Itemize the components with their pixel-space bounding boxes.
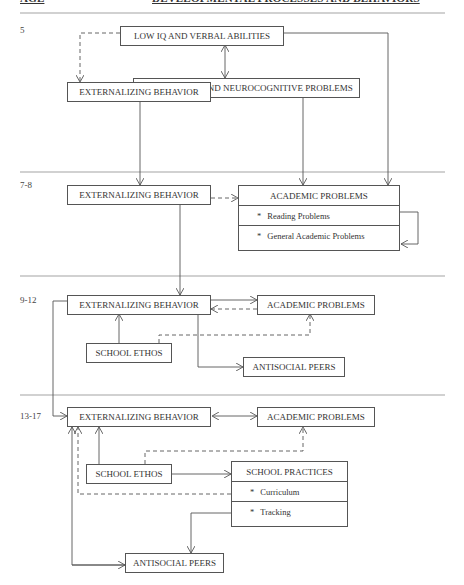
arrow-ext912-to-ext1317 [53, 301, 67, 416]
node-low-iq: LOW IQ AND VERBAL ABILITIES [120, 26, 284, 46]
academic-item-reading: *Reading Problems [239, 206, 399, 226]
practices-item-curriculum: *Curriculum [232, 482, 347, 502]
practices-item-tracking: *Tracking [232, 502, 347, 522]
node-externalizing-13-17: EXTERNALIZING BEHAVIOR [67, 407, 211, 427]
node-school-practices: SCHOOL PRACTICES *Curriculum *Tracking [231, 461, 348, 527]
age-label-13-17: 13-17 [20, 411, 41, 421]
loop-arrow-reading-to-general [400, 212, 418, 244]
arrow-ext-to-antisocial [198, 314, 243, 367]
node-school-ethos-13-17: SCHOOL ETHOS [86, 464, 172, 484]
bullet-icon: * [250, 507, 254, 517]
item-label: Tracking [260, 507, 290, 517]
academic-item-general: *General Academic Problems [239, 226, 399, 246]
item-label: Curriculum [260, 487, 299, 497]
node-academic-13-17: ACADEMIC PROBLEMS [257, 407, 375, 427]
age-label-5: 5 [20, 25, 25, 35]
age-label-9-12: 9-12 [20, 295, 37, 305]
node-academic-9-12: ACADEMIC PROBLEMS [257, 295, 375, 315]
item-label: Reading Problems [267, 211, 330, 221]
bullet-icon: * [257, 211, 261, 221]
age-label-7-8: 7-8 [20, 180, 32, 190]
school-practices-title: SCHOOL PRACTICES [232, 462, 347, 482]
arrow-tracking-to-antisocial [191, 513, 231, 553]
node-externalizing-7-8: EXTERNALIZING BEHAVIOR [67, 185, 211, 205]
item-label: General Academic Problems [267, 231, 364, 241]
node-antisocial-peers-13-17: ANTISOCIAL PEERS [125, 553, 224, 573]
arrow-lowiq-to-academic [284, 33, 388, 185]
dashed-arrow-lowiq-to-externalizing [80, 33, 120, 82]
dashed-arrow-ethos-to-academic [145, 427, 303, 464]
dashed-arrow-ethos-to-academic [159, 314, 310, 343]
node-externalizing-5: EXTERNALIZING BEHAVIOR [67, 82, 211, 102]
node-externalizing-9-12: EXTERNALIZING BEHAVIOR [67, 295, 211, 315]
node-antisocial-peers-9-12: ANTISOCIAL PEERS [243, 357, 345, 377]
academic-title: ACADEMIC PROBLEMS [239, 186, 399, 206]
bullet-icon: * [250, 487, 254, 497]
node-academic-7-8: ACADEMIC PROBLEMS *Reading Problems *Gen… [238, 185, 400, 251]
bullet-icon: * [257, 231, 261, 241]
node-school-ethos-9-12: SCHOOL ETHOS [86, 343, 172, 363]
arrow-antisocial-to-ext [72, 427, 125, 565]
